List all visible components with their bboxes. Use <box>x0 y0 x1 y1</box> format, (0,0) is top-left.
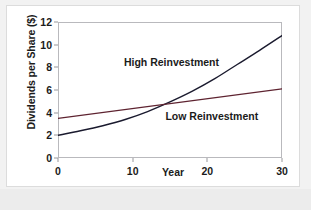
x-tick-mark <box>207 158 208 162</box>
y-tick-mark <box>54 67 58 68</box>
y-tick-label: 10 <box>40 39 52 51</box>
y-tick-label: 2 <box>46 129 52 141</box>
x-tick-mark <box>282 158 283 162</box>
figure-root: Dividends per Share ($) 024681012 010203… <box>0 0 311 210</box>
y-tick-mark <box>54 90 58 91</box>
series-annotation-low-reinvestment: Low Reinvestment <box>165 110 258 122</box>
plot-area: 024681012 0102030 High ReinvestmentLow R… <box>58 22 282 158</box>
y-tick-mark <box>54 44 58 45</box>
y-tick-mark <box>54 112 58 113</box>
y-tick-label: 12 <box>40 16 52 28</box>
x-tick-mark <box>132 158 133 162</box>
y-tick-label: 0 <box>46 152 52 164</box>
series-annotation-high-reinvestment: High Reinvestment <box>124 56 219 68</box>
chart-card: Dividends per Share ($) 024681012 010203… <box>6 5 300 187</box>
y-tick-label: 8 <box>46 61 52 73</box>
y-tick-label: 6 <box>46 84 52 96</box>
x-tick-mark <box>58 158 59 162</box>
y-tick-mark <box>54 135 58 136</box>
y-tick-label: 4 <box>46 107 52 119</box>
y-tick-mark <box>54 22 58 23</box>
plot-svg <box>58 22 282 158</box>
page-bottom-band <box>0 189 311 210</box>
x-axis-title: Year <box>59 166 287 178</box>
y-axis-title: Dividends per Share ($) <box>25 2 37 142</box>
